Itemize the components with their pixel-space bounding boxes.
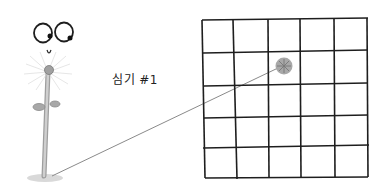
- plant-bud: [45, 66, 54, 75]
- eye-left: [34, 24, 52, 43]
- pupil-right: [68, 36, 73, 41]
- connector-line: [52, 68, 278, 176]
- pupil-left: [48, 34, 53, 39]
- leaf-right: [50, 101, 60, 107]
- illustration: [0, 0, 387, 191]
- leaf-left: [33, 104, 45, 111]
- seed-marker-icon: [276, 58, 293, 75]
- planting-label: 심기 #1: [112, 70, 158, 87]
- planting-grid: [202, 18, 369, 179]
- mouth-icon: [47, 50, 51, 53]
